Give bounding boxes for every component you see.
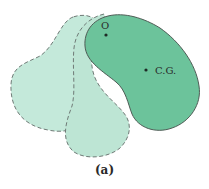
diagram-canvas: O C.G. [0, 0, 209, 189]
pivot-label: O [101, 20, 109, 31]
cg-point-icon [144, 68, 147, 71]
cg-label: C.G. [155, 65, 176, 76]
pendulum-diagram: O C.G. (a) [0, 0, 209, 189]
pivot-point-icon [104, 33, 107, 36]
figure-caption: (a) [0, 163, 209, 177]
